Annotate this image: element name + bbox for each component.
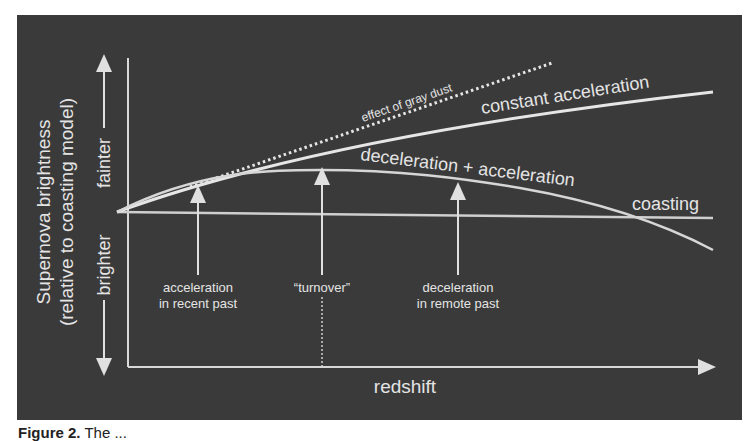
recent-past-label-line2: in recent past	[159, 296, 237, 311]
turnover-label: “turnover”	[294, 280, 350, 295]
y-axis-title-line2: (relative to coasting model)	[56, 98, 77, 326]
y-axis-title-line1: Supernova brightness	[33, 120, 54, 305]
caption-text: The ...	[84, 424, 127, 441]
x-axis-title: redshift	[374, 376, 437, 397]
fainter-label: fainter	[94, 138, 114, 188]
decel-accel-label: deceleration + acceleration	[360, 144, 576, 190]
recent-past-label-line1: acceleration	[163, 280, 233, 295]
figure-caption: Figure 2. The ...	[18, 424, 127, 441]
caption-label: Figure 2.	[18, 424, 81, 441]
coasting-label: coasting	[632, 194, 699, 214]
remote-past-label-line1: deceleration	[423, 280, 494, 295]
brighter-label: brighter	[94, 234, 114, 295]
remote-past-label-line2: in remote past	[417, 296, 500, 311]
